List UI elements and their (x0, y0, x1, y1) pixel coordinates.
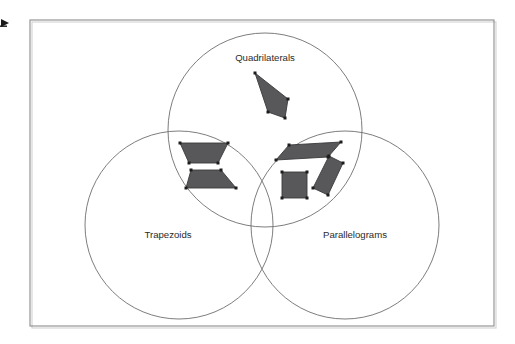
label-trapezoids: Trapezoids (144, 229, 191, 240)
trapezoid-bottom-polygon (186, 170, 236, 188)
label-parallelograms: Parallelograms (323, 229, 387, 240)
outer-border-shadow (32, 22, 496, 328)
square-polygon (282, 172, 307, 198)
vertex-dot (235, 187, 238, 190)
vertex-dot (254, 72, 257, 75)
shape-trapezoid-wide-bottom (186, 170, 236, 188)
shape-parallelogram-slanted (313, 156, 343, 195)
vertex-dot (275, 159, 278, 162)
vertex-dot (306, 171, 309, 174)
vertex-dot (217, 162, 220, 165)
vertex-dot (185, 187, 188, 190)
vertex-dot (328, 155, 331, 158)
vertex-dot (312, 187, 315, 190)
vertex-dot (281, 197, 284, 200)
venn-diagram-svg: Quadrilaterals Trapezoids Parallelograms (0, 0, 515, 344)
left-edge-arrow-mark (0, 19, 9, 27)
vertex-dot (306, 197, 309, 200)
vertex-dot (342, 162, 345, 165)
vertex-dot (227, 142, 230, 145)
kite-polygon (255, 73, 288, 118)
vertex-dot (287, 98, 290, 101)
vertex-dot (281, 171, 284, 174)
vertex-dot (327, 194, 330, 197)
arrow-tail (0, 26, 7, 27)
label-quadrilaterals: Quadrilaterals (235, 52, 295, 63)
vertex-dot (220, 169, 223, 172)
vertex-dot (284, 117, 287, 120)
vertex-dot (179, 142, 182, 145)
trapezoid-top-polygon (180, 143, 228, 163)
vertex-dot (188, 162, 191, 165)
shape-trapezoid-wide-top (180, 143, 228, 163)
venn-circles (85, 33, 439, 319)
shape-square (282, 172, 307, 198)
vertex-dot (190, 169, 193, 172)
outer-border (30, 20, 494, 326)
shape-kite-quadrilateral (255, 73, 288, 118)
vertex-dot (288, 144, 291, 147)
parallelogram-slanted-polygon (313, 156, 343, 195)
vertex-dot (340, 141, 343, 144)
vertex-dot (267, 111, 270, 114)
